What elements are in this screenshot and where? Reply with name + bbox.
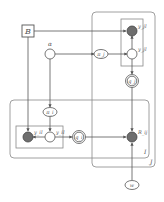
node-y-il-latent-label: y_il (55, 129, 65, 136)
node-y-il-latent (45, 132, 55, 142)
node-pi-j-label: π_j (96, 51, 105, 58)
node-y-jl-latent-label: y_jl (137, 46, 147, 53)
node-y-il-observed (23, 132, 33, 142)
node-y-jl-observed-label: y_jl (137, 23, 147, 30)
node-R-ij (127, 132, 137, 142)
node-q-i-label: q_i (75, 134, 83, 141)
node-w-label: w (130, 182, 135, 188)
plate-I-label: I (143, 148, 147, 155)
node-B-label: B (24, 27, 31, 36)
plate-J (92, 12, 155, 167)
node-alpha-label: α (48, 40, 52, 47)
plate-J-label: J (148, 158, 153, 166)
node-y-jl-observed (127, 26, 137, 36)
plate-I (10, 100, 149, 158)
node-alpha (45, 49, 55, 59)
node-q-j-label: q_j (128, 78, 136, 85)
node-y-jl-latent (127, 49, 137, 59)
node-R-ij-label: R_ij (137, 129, 148, 136)
node-y-il-observed-label: y_il (33, 129, 43, 136)
node-pi-i-label: π_i (45, 109, 54, 116)
graphical-model-diagram: B α π_j y_jl y_jl q_j π_i y_il y_il q_i … (0, 0, 164, 202)
